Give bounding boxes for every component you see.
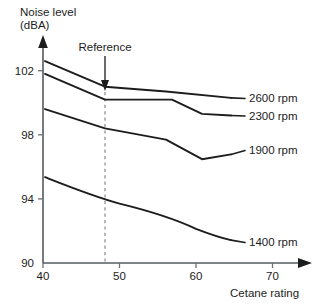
series-1400-rpm: 1400 rpm [45,177,298,248]
y-tick-label-90: 90 [21,257,34,269]
reference-label: Reference [78,41,131,53]
x-tick-label-60: 60 [190,270,203,282]
series-line-2600-rpm [45,61,231,98]
y-axis-arrow-icon [38,35,48,48]
x-axis-title: Cetane rating [230,287,299,299]
y-axis [38,35,48,263]
x-axis [43,258,312,268]
x-tick-label-70: 70 [266,270,279,282]
reference-annotation: Reference [78,41,131,263]
series-leader-1400-rpm [231,240,245,242]
x-tick-label-40: 40 [37,270,50,282]
series-label-1400-rpm: 1400 rpm [249,236,298,248]
noise-level-vs-cetane-rating-chart: Noise level (dBA) 102 98 94 90 40 [0,0,325,305]
series-line-1900-rpm [45,109,231,159]
y-tick-label-94: 94 [21,193,34,205]
x-tick-label-50: 50 [113,270,126,282]
series-line-1400-rpm [45,177,231,240]
x-axis-arrow-icon [298,258,312,268]
y-tick-label-102: 102 [15,65,34,77]
y-tick-label-98: 98 [21,129,34,141]
series-label-1900-rpm: 1900 rpm [249,144,298,156]
series-leader-1900-rpm [231,151,245,155]
y-axis-title-line2: (dBA) [20,19,50,31]
chart-svg: Noise level (dBA) 102 98 94 90 40 [0,0,325,305]
y-axis-title-line1: Noise level [20,6,76,18]
y-tick-group: 102 98 94 90 [15,65,43,269]
x-tick-group: 40 50 60 70 [37,263,279,282]
series-label-2600-rpm: 2600 rpm [249,92,298,104]
series-leader-2600-rpm [231,98,245,99]
series-leader-2300-rpm [231,116,245,117]
series-label-2300-rpm: 2300 rpm [249,110,298,122]
series-2600-rpm: 2600 rpm [45,61,298,104]
